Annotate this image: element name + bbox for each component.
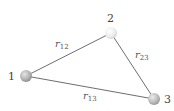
particle-3-sphere [148, 93, 160, 105]
r13-subscript: 13 [88, 95, 97, 103]
r23-subscript: 23 [140, 54, 149, 62]
particle-1-sphere [20, 70, 32, 82]
distance-label-r13: r13 [83, 90, 97, 103]
three-body-diagram: 1 2 3 r12 r23 r13 [0, 0, 174, 111]
distance-label-r12: r12 [55, 38, 69, 51]
r12-subscript: 12 [60, 43, 69, 51]
particle-1-label: 1 [8, 70, 15, 83]
distance-label-r23: r23 [135, 49, 149, 62]
edge-r12 [26, 33, 111, 76]
particle-2-label: 2 [107, 12, 114, 25]
edge-r23 [111, 33, 154, 99]
particle-3-label: 3 [164, 93, 171, 106]
particle-2-sphere [105, 27, 117, 39]
